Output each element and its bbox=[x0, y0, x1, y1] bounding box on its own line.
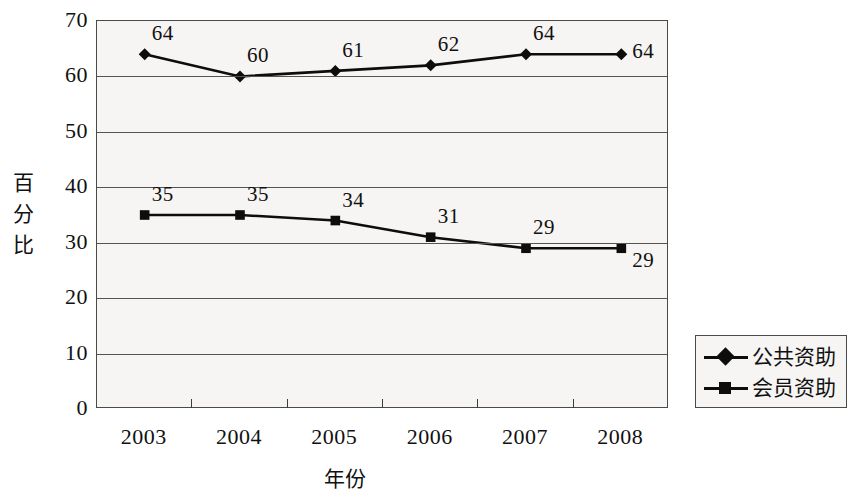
data-label: 64 bbox=[632, 41, 654, 62]
gridline bbox=[97, 132, 667, 133]
data-label: 62 bbox=[438, 34, 460, 55]
chart-figure: 706050403020100 百分比 20032004200520062007… bbox=[0, 0, 851, 495]
gridline bbox=[97, 354, 667, 355]
gridline bbox=[97, 243, 667, 244]
y-axis-title-char: 分 bbox=[8, 199, 38, 230]
y-axis-title-char: 百 bbox=[8, 168, 38, 199]
legend-item-public-funding[interactable]: 公共资助 bbox=[704, 341, 846, 372]
data-point-marker-square[interactable] bbox=[426, 232, 436, 242]
data-point-marker-square[interactable] bbox=[235, 210, 245, 220]
data-point-marker-diamond[interactable] bbox=[425, 59, 437, 71]
legend-label-public-funding: 公共资助 bbox=[748, 345, 836, 369]
data-point-marker-diamond[interactable] bbox=[615, 48, 627, 60]
y-axis-tick-label: 0 bbox=[32, 397, 88, 419]
data-label: 64 bbox=[533, 23, 555, 44]
x-axis-title: 年份 bbox=[0, 462, 690, 492]
y-axis-title: 百分比 bbox=[8, 168, 38, 261]
data-point-marker-diamond[interactable] bbox=[329, 65, 341, 77]
x-axis-tick bbox=[573, 399, 574, 408]
data-point-marker-square[interactable] bbox=[521, 243, 531, 253]
square-marker-icon bbox=[704, 379, 748, 397]
data-label: 29 bbox=[533, 217, 555, 238]
x-axis-tick-label: 2004 bbox=[191, 424, 287, 450]
x-axis-tick-label: 2007 bbox=[477, 424, 573, 450]
x-axis-tick-label: 2003 bbox=[96, 424, 192, 450]
data-label: 35 bbox=[152, 184, 174, 205]
y-axis-tick-label: 50 bbox=[32, 120, 88, 142]
legend-label-member-funding: 会员资助 bbox=[748, 376, 836, 400]
chart-legend: 公共资助 会员资助 bbox=[695, 335, 847, 408]
data-label: 31 bbox=[438, 206, 460, 227]
data-point-marker-square[interactable] bbox=[140, 210, 150, 220]
x-axis-tick bbox=[382, 399, 383, 408]
series-line bbox=[145, 54, 622, 76]
x-axis-tick bbox=[477, 399, 478, 408]
y-axis-tick-label: 30 bbox=[32, 231, 88, 253]
x-axis-tick bbox=[287, 399, 288, 408]
data-label: 34 bbox=[342, 190, 364, 211]
plot-area bbox=[96, 20, 668, 408]
data-label: 64 bbox=[152, 23, 174, 44]
x-axis-tick-label: 2008 bbox=[572, 424, 668, 450]
y-axis-tick-label: 40 bbox=[32, 175, 88, 197]
x-axis-tick-labels: 200320042005200620072008 bbox=[96, 424, 668, 454]
data-label: 29 bbox=[632, 250, 654, 271]
x-axis-tick-label: 2006 bbox=[382, 424, 478, 450]
gridline bbox=[97, 187, 667, 188]
x-axis-tick-label: 2005 bbox=[286, 424, 382, 450]
diamond-marker-icon bbox=[704, 348, 748, 366]
y-axis-tick-label: 60 bbox=[32, 64, 88, 86]
data-point-marker-diamond[interactable] bbox=[520, 48, 532, 60]
data-point-marker-square[interactable] bbox=[617, 243, 627, 253]
x-axis-ticks bbox=[96, 408, 668, 418]
y-axis-title-char: 比 bbox=[8, 230, 38, 261]
y-axis-tick-label: 70 bbox=[32, 9, 88, 31]
legend-item-member-funding[interactable]: 会员资助 bbox=[704, 372, 846, 403]
gridline bbox=[97, 298, 667, 299]
y-axis-tick-label: 10 bbox=[32, 342, 88, 364]
gridline bbox=[97, 76, 667, 77]
data-point-marker-square[interactable] bbox=[331, 216, 341, 226]
y-axis-tick-label: 20 bbox=[32, 286, 88, 308]
series-layer bbox=[97, 21, 669, 409]
data-label: 61 bbox=[342, 40, 364, 61]
data-label: 60 bbox=[247, 45, 269, 66]
x-axis-tick bbox=[191, 399, 192, 408]
data-point-marker-diamond[interactable] bbox=[139, 48, 151, 60]
data-label: 35 bbox=[247, 184, 269, 205]
